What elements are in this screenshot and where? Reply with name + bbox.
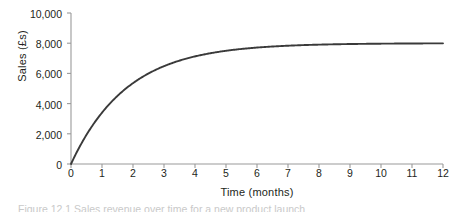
sales-curve xyxy=(71,43,443,164)
x-axis-ticks xyxy=(71,164,443,168)
figure-caption: Figure 12.1 Sales revenue over time for … xyxy=(18,203,448,212)
y-axis-ticks xyxy=(67,13,71,164)
figure-container: Sales (£s) 10,000 8,000 6,000 4,000 2,00… xyxy=(0,0,456,212)
plot-area xyxy=(0,0,456,212)
